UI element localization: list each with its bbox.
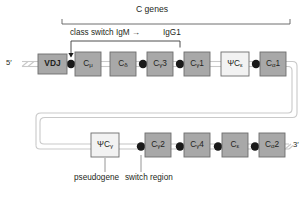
three-prime-label: 3′ <box>293 140 299 149</box>
gene-c-gamma-4-label: Cγ4 <box>184 139 210 149</box>
igg1-label: IgG1 <box>163 28 181 37</box>
gene-boxes-layer <box>0 0 306 197</box>
c-genes-bracket-label: C genes <box>136 4 168 14</box>
gene-c-gamma-3-label: Cγ3 <box>147 58 173 68</box>
gene-c-delta-label: Cδ <box>110 58 136 68</box>
gene-c-mu-label: Cμ <box>75 58 101 68</box>
gene-c-alpha-2-label: Cα2 <box>259 139 285 149</box>
five-prime-label: 5′ <box>6 58 12 67</box>
gene-c-gamma-2-label: Cγ2 <box>145 139 171 149</box>
figure-canvas: C genes class switch IgM → IgG1 5′ 3′ ps… <box>0 0 306 197</box>
pseudogene-psi-c-epsilon-label: ΨCε <box>221 58 249 68</box>
gene-c-gamma-1-label: Cγ1 <box>184 58 210 68</box>
class-switch-label: class switch IgM → <box>70 28 140 37</box>
switch-region-label: switch region <box>125 173 173 182</box>
pseudogene-label: pseudogene <box>74 173 119 182</box>
vdj-segment-label: VDJ <box>38 58 67 68</box>
gene-c-alpha-1-label: Cα1 <box>260 58 286 68</box>
gene-c-epsilon-label: Cε <box>222 139 248 149</box>
pseudogene-psi-c-gamma-label: ΨCγ <box>91 139 119 149</box>
